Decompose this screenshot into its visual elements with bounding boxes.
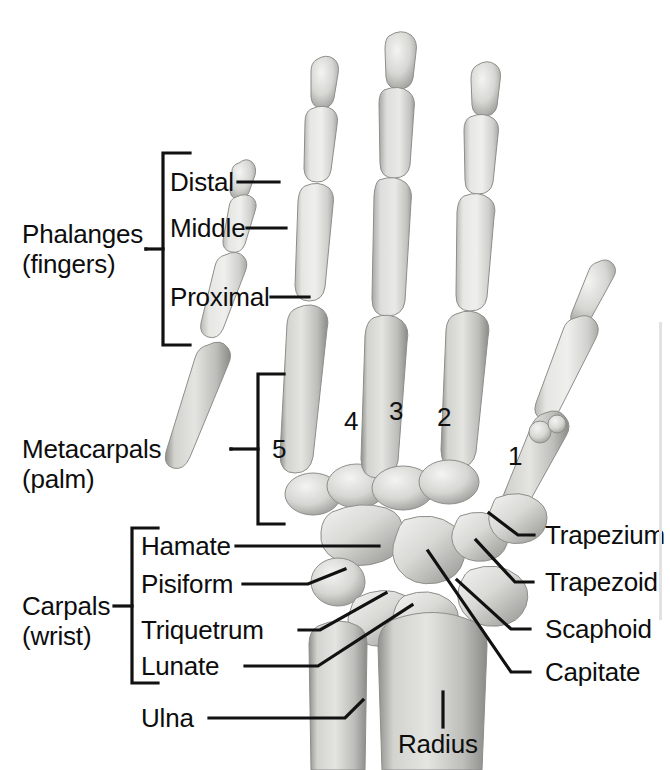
group-label-carpals-line2: (wrist): [22, 621, 91, 651]
label-lunate: Lunate: [141, 651, 219, 681]
metacarpal-number-5: 5: [272, 436, 286, 462]
group-label-phalanges-line1: Phalanges: [22, 219, 143, 249]
label-proximal: Proximal: [170, 282, 270, 312]
metacarpal-number-4: 4: [344, 408, 358, 434]
group-label-carpals: Carpals(wrist): [22, 591, 110, 651]
metacarpal-number-3: 3: [389, 398, 403, 424]
group-label-phalanges-line2: (fingers): [22, 249, 116, 279]
label-hamate: Hamate: [141, 531, 231, 561]
label-pisiform: Pisiform: [141, 569, 233, 599]
group-label-carpals-line1: Carpals: [22, 591, 110, 621]
group-label-metacarpals-line1: Metacarpals: [22, 434, 161, 464]
label-scaphoid: Scaphoid: [545, 614, 652, 644]
label-trapezoid: Trapezoid: [545, 567, 658, 597]
label-capitate: Capitate: [545, 657, 640, 687]
page-edge-artifact: [659, 322, 662, 620]
label-distal: Distal: [170, 167, 234, 197]
group-label-phalanges: Phalanges(fingers): [22, 219, 143, 279]
label-ulna: Ulna: [141, 703, 194, 733]
label-triquetrum: Triquetrum: [141, 615, 264, 645]
group-label-metacarpals-line2: (palm): [22, 464, 94, 494]
metacarpal-number-2: 2: [437, 404, 451, 430]
hand-skeleton-figure: Phalanges(fingers) Metacarpals(palm) Car…: [0, 0, 670, 770]
label-middle: Middle: [170, 213, 245, 243]
label-text-layer: Phalanges(fingers) Metacarpals(palm) Car…: [0, 0, 670, 770]
label-trapezium: Trapezium: [545, 520, 665, 550]
group-label-metacarpals: Metacarpals(palm): [22, 434, 161, 494]
metacarpal-number-1: 1: [508, 443, 522, 469]
label-radius: Radius: [398, 729, 478, 759]
